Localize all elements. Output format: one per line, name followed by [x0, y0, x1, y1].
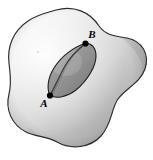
point-a-label: A [39, 97, 47, 109]
surface-diagram-svg: A B [0, 0, 153, 160]
point-a-dot [47, 92, 53, 98]
point-b-label: B [87, 28, 95, 40]
paper-speck-icon [37, 51, 39, 53]
figure-canvas: A B [0, 0, 153, 160]
point-b-dot [82, 40, 88, 46]
